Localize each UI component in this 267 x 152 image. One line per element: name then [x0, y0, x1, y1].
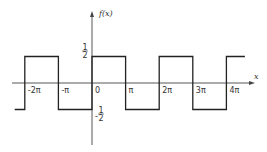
x-tick-labels: -2π-π0π2π3π4π — [28, 86, 240, 95]
x-tick-label: π — [129, 86, 134, 95]
y-tick-denominator: 2 — [98, 114, 103, 123]
x-tick-label: 0 — [95, 86, 100, 95]
x-tick-label: -π — [61, 86, 69, 95]
x-axis-label: x — [254, 72, 259, 81]
x-axis-arrow — [249, 81, 255, 85]
x-tick-label: 4π — [229, 86, 239, 95]
y-tick-label: -12 — [95, 106, 104, 123]
y-tick-label: 12 — [82, 43, 88, 60]
y-tick-labels: 12-12 — [82, 43, 104, 123]
axes: x f(x) — [12, 9, 259, 145]
y-tick-denominator: 2 — [82, 51, 87, 60]
x-tick-label: 2π — [162, 86, 172, 95]
x-tick-label: -2π — [28, 86, 41, 95]
y-axis-label: f(x) — [98, 9, 113, 18]
y-axis-arrow — [90, 11, 94, 17]
x-tick-label: 3π — [196, 86, 206, 95]
square-wave-chart: x f(x) -2π-π0π2π3π4π 12-12 — [0, 0, 267, 152]
